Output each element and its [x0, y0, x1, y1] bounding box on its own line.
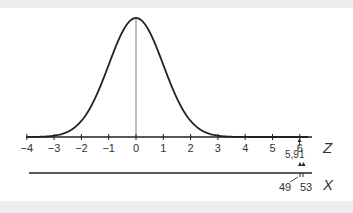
z-tick-label: 5 — [269, 142, 275, 154]
z-tick-label: −3 — [48, 142, 61, 154]
z-axis-tick-labels: −4−3−2−10123456 — [21, 142, 303, 154]
z-tick-label: 1 — [160, 142, 166, 154]
x-axis-name: X — [322, 176, 334, 193]
z-tick-label: −4 — [21, 142, 34, 154]
arrowhead-icon — [298, 139, 302, 143]
z-tick-label: −2 — [75, 142, 88, 154]
normal-distribution-diagram: −4−3−2−10123456 Z 5,91 49 53 X — [0, 0, 353, 213]
z-tick-label: −1 — [102, 142, 115, 154]
z-tick-label: 2 — [188, 142, 194, 154]
x-label-53: 53 — [300, 181, 312, 193]
z-tick-label: 0 — [133, 142, 139, 154]
x-label-49: 49 — [279, 181, 291, 193]
marker-591-label: 5,91 — [285, 149, 305, 160]
z-tick-label: 3 — [215, 142, 221, 154]
up-arrows-icon — [298, 162, 306, 166]
z-axis-name: Z — [322, 139, 333, 156]
z-tick-label: 4 — [242, 142, 248, 154]
normal-curve — [27, 18, 308, 137]
